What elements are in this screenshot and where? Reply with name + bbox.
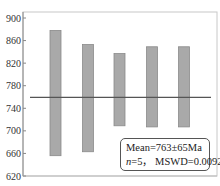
- y-tick-label: 780: [6, 80, 21, 91]
- bars: [50, 30, 190, 155]
- age-bar-3: [114, 54, 125, 126]
- stats-annotation: Mean=763±65Ma n=5， MSWD=0.0092: [120, 138, 210, 171]
- age-bar-4: [147, 47, 158, 127]
- y-tick-label: 620: [6, 171, 21, 182]
- age-bar-5: [179, 47, 190, 127]
- n-mswd-text: n=5， MSWD=0.0092: [126, 155, 209, 169]
- y-tick-label: 900: [6, 13, 21, 24]
- age-bar-2: [83, 45, 94, 152]
- y-tick-label: 860: [6, 35, 21, 46]
- n-mswd-value: =5， MSWD=0.0092: [131, 156, 220, 167]
- mean-text: Mean=763±65Ma: [126, 141, 209, 155]
- y-tick-label: 700: [6, 125, 21, 136]
- y-tick-label: 660: [6, 148, 21, 159]
- y-tick-label: 820: [6, 58, 21, 69]
- age-bar-1: [50, 30, 61, 155]
- y-tick-label: 740: [6, 103, 21, 114]
